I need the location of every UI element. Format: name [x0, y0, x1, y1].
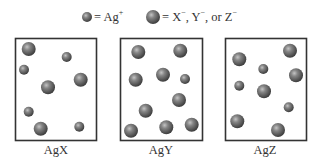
- ag-ion-sphere: [19, 65, 29, 75]
- anion-sphere: [230, 114, 244, 128]
- legend-anion-label: = X−, Y−, or Z−: [162, 9, 237, 25]
- label-agy: AgY: [131, 143, 191, 158]
- box-agy: [121, 39, 203, 141]
- legend-ag-label: = Ag+: [94, 9, 123, 25]
- anion-sphere: [129, 73, 143, 87]
- box-agz: [226, 39, 307, 141]
- box-agx: [16, 39, 97, 141]
- diagram-canvas: [0, 0, 320, 164]
- anion-sphere: [156, 68, 170, 82]
- anion-sphere: [124, 124, 138, 138]
- ag-ion-sphere: [74, 122, 84, 132]
- anion-sphere: [139, 104, 153, 118]
- anion-sphere: [185, 118, 199, 132]
- label-agz: AgZ: [235, 143, 295, 158]
- ag-ion-sphere: [284, 102, 294, 112]
- ag-ion-sphere: [62, 52, 72, 62]
- anion-sphere: [289, 68, 303, 82]
- anion-sphere: [159, 120, 173, 134]
- anion-sphere: [283, 44, 297, 58]
- anion-sphere: [131, 45, 145, 59]
- diagram: = Ag+ = X−, Y−, or Z− AgX AgY AgZ: [0, 0, 320, 164]
- anion-sphere: [232, 52, 246, 66]
- label-agx: AgX: [26, 143, 86, 158]
- anion-sphere: [173, 44, 187, 58]
- ag-ion-sphere: [24, 107, 34, 117]
- ag-ion-sphere: [180, 74, 190, 84]
- legend-ag-sphere-icon: [82, 12, 92, 22]
- anion-sphere: [41, 80, 55, 94]
- anion-sphere: [22, 42, 36, 56]
- anion-sphere: [34, 122, 48, 136]
- legend-anion-sphere-icon: [146, 10, 160, 24]
- anion-sphere: [172, 93, 186, 107]
- anion-sphere: [257, 84, 271, 98]
- anion-sphere: [74, 73, 88, 87]
- boxes-layer: [16, 39, 307, 141]
- ag-ion-sphere: [258, 64, 268, 74]
- anion-sphere: [271, 123, 285, 137]
- ag-ion-sphere: [234, 81, 244, 91]
